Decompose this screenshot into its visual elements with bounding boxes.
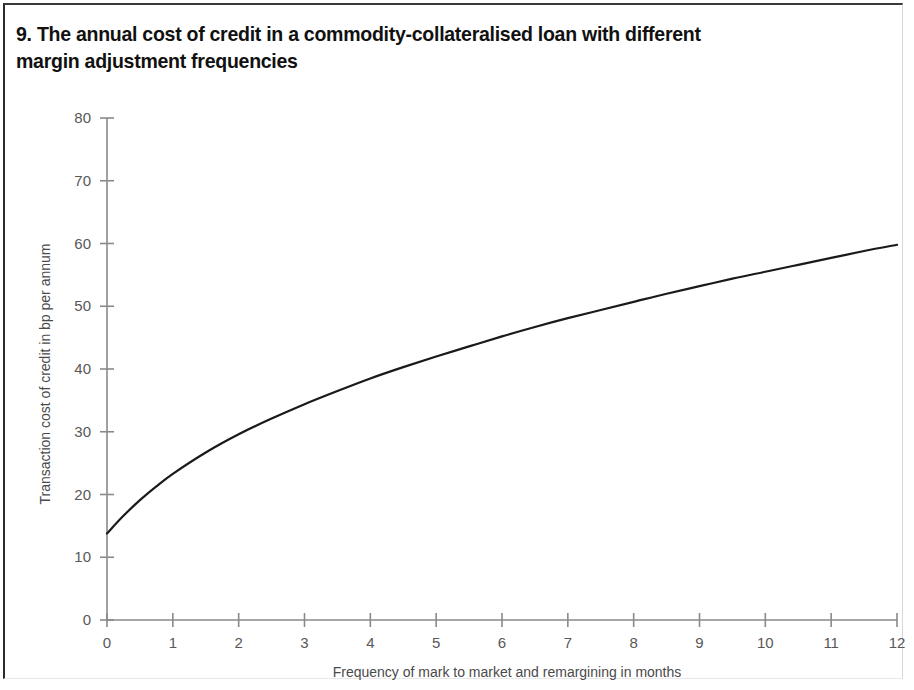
x-tick-label: 5 [432,634,440,651]
x-tick-label: 6 [498,634,506,651]
y-axis-title: Transaction cost of credit in bp per ann… [37,244,53,505]
tick-labels-group: 010203040506070800123456789101112 [74,109,905,651]
axes-group [107,118,897,620]
x-tick-label: 4 [366,634,374,651]
y-tick-label: 50 [74,297,91,314]
y-tick-label: 10 [74,548,91,565]
x-tick-label: 7 [564,634,572,651]
y-tick-label: 70 [74,172,91,189]
y-tick-label: 60 [74,235,91,252]
axis-titles-group: Frequency of mark to market and remargin… [37,244,681,680]
y-tick-label: 30 [74,423,91,440]
x-tick-label: 12 [889,634,906,651]
data-series-group [107,245,897,534]
x-tick-label: 10 [757,634,774,651]
y-tick-label: 40 [74,360,91,377]
x-tick-label: 2 [234,634,242,651]
figure-panel: 9. The annual cost of credit in a commod… [0,0,914,690]
cost-of-credit-curve [107,245,897,534]
x-axis-title: Frequency of mark to market and remargin… [333,664,682,680]
tick-marks-group [100,118,897,627]
x-tick-label: 1 [169,634,177,651]
chart-plot-area: 010203040506070800123456789101112 Freque… [0,0,914,690]
x-tick-label: 0 [103,634,111,651]
x-tick-label: 3 [300,634,308,651]
y-tick-label: 80 [74,109,91,126]
y-tick-label: 20 [74,486,91,503]
x-tick-label: 11 [823,634,839,651]
x-tick-label: 8 [629,634,637,651]
x-tick-label: 9 [695,634,703,651]
y-tick-label: 0 [83,611,91,628]
